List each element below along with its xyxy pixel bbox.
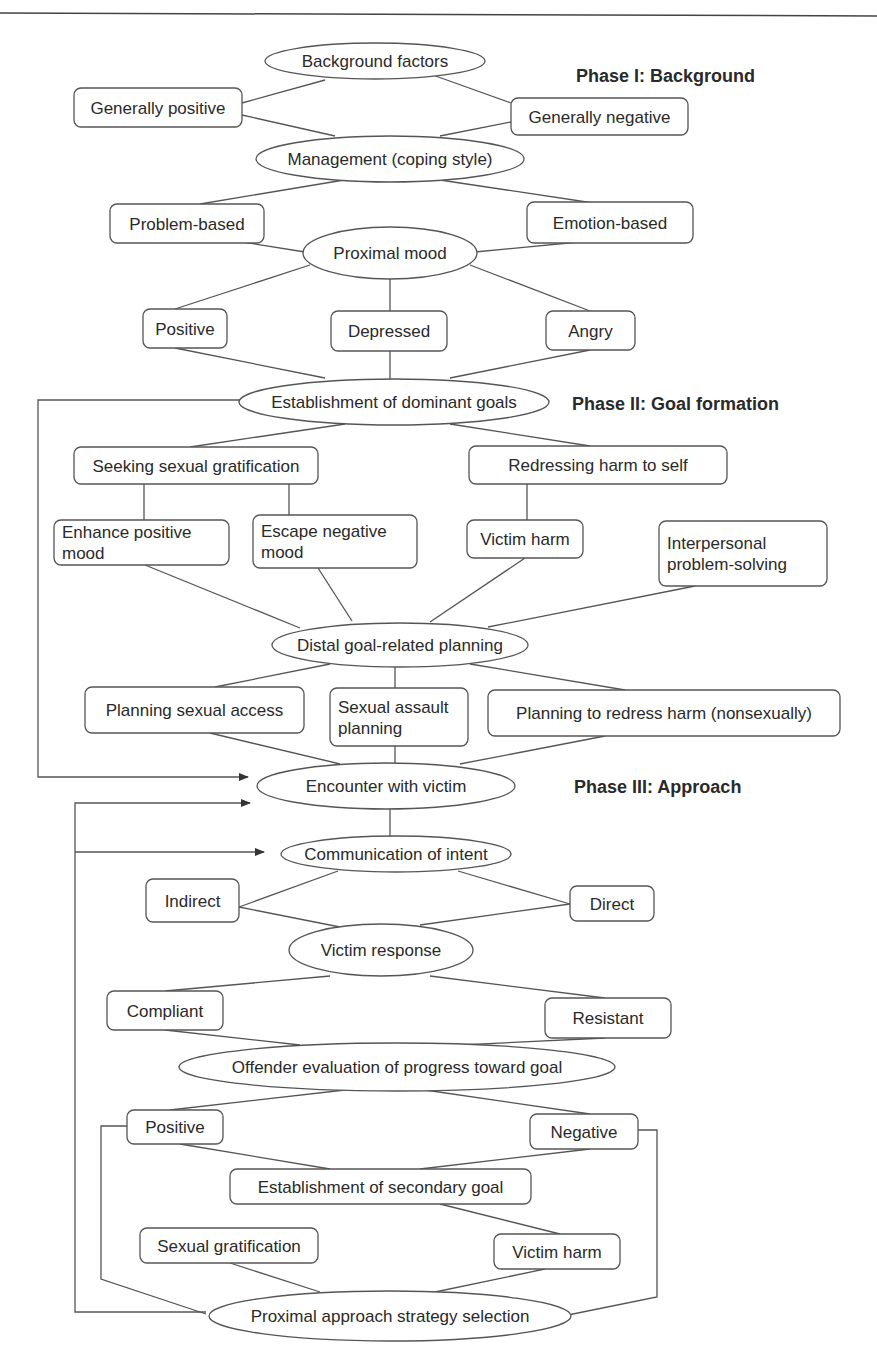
node-label: Communication of intent: [304, 845, 488, 864]
connector-line: [430, 976, 605, 998]
phase-label-p1: Phase I: Background: [576, 66, 755, 86]
node-planning-redress: Planning to redress harm (nonsexually): [488, 690, 840, 736]
node-label: Sexual gratification: [157, 1237, 301, 1256]
connector-line: [180, 1144, 330, 1169]
node-victim-harm-2: Victim harm: [494, 1234, 620, 1269]
connector-line: [458, 871, 570, 904]
connector-line: [450, 424, 590, 446]
node-background-factors: Background factors: [265, 43, 485, 79]
node-label: Victim response: [321, 941, 442, 960]
node-label: Positive: [145, 1118, 205, 1137]
node-label: Victim harm: [512, 1243, 601, 1262]
page-top-rule: [0, 13, 877, 16]
node-label: planning: [338, 719, 402, 738]
node-label: Direct: [590, 895, 635, 914]
connector-line: [242, 80, 325, 103]
node-escape-negative: Escape negativemood: [253, 515, 417, 568]
node-encounter: Encounter with victim: [257, 763, 515, 809]
node-label: Positive: [155, 320, 215, 339]
node-indirect: Indirect: [146, 879, 239, 922]
connector-line: [145, 565, 300, 628]
node-generally-negative: Generally negative: [511, 98, 688, 135]
connector-line: [242, 115, 335, 136]
connector-line: [440, 1204, 560, 1234]
node-victim-harm-1: Victim harm: [467, 520, 583, 558]
feedback-loop-line: [101, 1126, 206, 1314]
node-label: Compliant: [127, 1002, 204, 1021]
node-seeking-gratification: Seeking sexual gratification: [74, 447, 318, 484]
connector-line: [200, 179, 350, 204]
node-redressing-harm: Redressing harm to self: [469, 446, 727, 484]
node-eval-positive: Positive: [127, 1110, 223, 1144]
node-label: Negative: [550, 1123, 617, 1142]
connector-line: [430, 74, 511, 103]
rounded-box-shape: [659, 521, 827, 586]
connector-line: [165, 1030, 300, 1045]
connector-line: [470, 265, 590, 311]
connector-line: [210, 733, 340, 764]
node-direct: Direct: [570, 886, 654, 921]
node-mood-positive: Positive: [143, 309, 227, 348]
connector-line: [215, 664, 330, 687]
node-resistant: Resistant: [545, 998, 671, 1038]
node-distal-planning: Distal goal-related planning: [272, 623, 528, 667]
node-label: Management (coping style): [287, 150, 492, 169]
node-label: Problem-based: [129, 215, 244, 234]
connector-line: [470, 664, 625, 690]
feedback-loop-line: [568, 1130, 657, 1315]
phase-label-p2: Phase II: Goal formation: [572, 394, 779, 414]
node-label: Victim harm: [480, 530, 569, 549]
connector-line: [430, 558, 525, 622]
node-proximal-mood: Proximal mood: [303, 227, 477, 279]
node-label: Planning sexual access: [106, 701, 284, 720]
phase-labels: Phase I: BackgroundPhase II: Goal format…: [572, 66, 779, 797]
node-emotion-based: Emotion-based: [527, 202, 693, 243]
node-assault-planning: Sexual assaultplanning: [330, 688, 468, 746]
diagram-svg: Background factorsGenerally positiveGene…: [0, 0, 877, 1362]
node-management: Management (coping style): [256, 136, 524, 182]
node-victim-response: Victim response: [289, 924, 473, 976]
node-mood-angry: Angry: [546, 311, 635, 350]
connector-line: [460, 736, 605, 764]
node-communication: Communication of intent: [281, 836, 511, 872]
node-interpersonal: Interpersonalproblem-solving: [659, 521, 827, 586]
node-proximal-strategy: Proximal approach strategy selection: [209, 1291, 571, 1341]
connector-line: [420, 904, 570, 925]
node-label: Encounter with victim: [306, 777, 467, 796]
node-compliant: Compliant: [107, 991, 223, 1030]
node-label: problem-solving: [667, 555, 787, 574]
node-label: Distal goal-related planning: [297, 636, 503, 655]
connector-line: [230, 1263, 320, 1292]
node-label: Angry: [568, 322, 613, 341]
node-label: Indirect: [165, 892, 221, 911]
connector-line: [460, 1038, 605, 1045]
node-label: Background factors: [302, 52, 448, 71]
node-problem-based: Problem-based: [110, 204, 264, 243]
connector-line: [175, 348, 325, 378]
node-enhance-positive: Enhance positivemood: [54, 520, 229, 565]
connector-line: [425, 1090, 590, 1114]
node-eval-negative: Negative: [530, 1114, 638, 1149]
node-label: Redressing harm to self: [508, 456, 688, 475]
connector-line: [175, 265, 310, 309]
node-label: Depressed: [348, 322, 430, 341]
node-label: Proximal mood: [333, 244, 446, 263]
node-label: Proximal approach strategy selection: [251, 1307, 530, 1326]
offender-process-diagram: Background factorsGenerally positiveGene…: [0, 0, 877, 1362]
connector-line: [488, 586, 695, 627]
node-label: Enhance positive: [62, 523, 191, 542]
diagram-nodes: Background factorsGenerally positiveGene…: [54, 43, 840, 1341]
node-label: Emotion-based: [553, 214, 667, 233]
connector-line: [170, 1090, 345, 1110]
node-label: Planning to redress harm (nonsexually): [516, 704, 812, 723]
node-label: Seeking sexual gratification: [93, 457, 300, 476]
connector-line: [420, 1149, 590, 1169]
node-label: Generally negative: [529, 108, 671, 127]
connector-line: [450, 350, 590, 378]
node-sexual-gratification: Sexual gratification: [140, 1228, 318, 1263]
node-label: Interpersonal: [667, 534, 766, 553]
connector-line: [165, 976, 330, 991]
node-mood-depressed: Depressed: [331, 311, 447, 351]
connector-line: [318, 568, 352, 621]
node-label: Establishment of secondary goal: [258, 1178, 504, 1197]
